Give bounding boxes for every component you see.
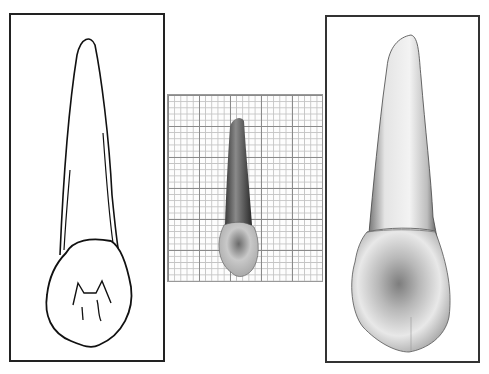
- tooth-photo-large: [327, 17, 482, 365]
- line-drawing-panel: [9, 13, 165, 362]
- enlarged-photo-panel: [325, 15, 480, 363]
- tooth-photo-small: [168, 95, 324, 283]
- tooth-outline-drawing: [11, 15, 167, 364]
- grid-photo-panel: [167, 94, 323, 282]
